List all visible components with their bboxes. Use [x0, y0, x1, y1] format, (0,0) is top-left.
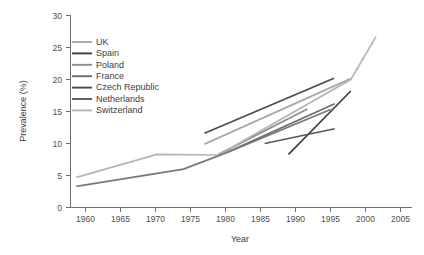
y-axis-ticks	[66, 16, 71, 208]
x-axis-ticks	[86, 208, 401, 213]
x-tick-label-1975: 1975	[181, 214, 200, 224]
prevalence-line-chart: 0 5 10 15 20 25 30 Prevalence (%)	[0, 0, 424, 255]
series-line-czech-republic	[205, 78, 335, 133]
x-tick-label-1970: 1970	[146, 214, 165, 224]
legend-label-switzerland: Switzerland	[96, 105, 143, 115]
legend-item-czech-republic[interactable]: Czech Republic	[72, 82, 160, 92]
chart-legend: UKSpainPolandFranceCzech RepublicNetherl…	[72, 37, 160, 115]
legend-label-france: France	[96, 71, 124, 81]
y-tick-label-20: 20	[53, 75, 63, 85]
legend-label-uk: UK	[96, 37, 109, 47]
series-line-uk	[205, 79, 351, 144]
y-axis-tick-labels: 0 5 10 15 20 25 30	[53, 11, 63, 213]
chart-canvas: 0 5 10 15 20 25 30 Prevalence (%)	[0, 0, 424, 255]
legend-label-poland: Poland	[96, 60, 124, 70]
legend-label-spain: Spain	[96, 48, 119, 58]
x-axis-title: Year	[231, 234, 249, 244]
x-tick-label-1960: 1960	[76, 214, 95, 224]
y-tick-label-5: 5	[57, 171, 62, 181]
x-tick-label-2005: 2005	[391, 214, 410, 224]
legend-item-spain[interactable]: Spain	[72, 48, 119, 58]
series-line-long-dark-trend	[76, 110, 330, 187]
x-tick-label-1995: 1995	[321, 214, 340, 224]
legend-item-uk[interactable]: UK	[72, 37, 109, 47]
legend-item-france[interactable]: France	[72, 71, 124, 81]
y-tick-label-30: 30	[53, 11, 63, 21]
legend-item-netherlands[interactable]: Netherlands	[72, 94, 145, 104]
y-tick-label-10: 10	[53, 139, 63, 149]
legend-item-poland[interactable]: Poland	[72, 60, 124, 70]
x-axis: 1960 1965 1970 1975 1980 1985 1990 1995 …	[71, 208, 413, 245]
x-tick-label-1965: 1965	[111, 214, 130, 224]
y-tick-label-15: 15	[53, 107, 63, 117]
x-axis-tick-labels: 1960 1965 1970 1975 1980 1985 1990 1995 …	[76, 214, 410, 224]
legend-item-switzerland[interactable]: Switzerland	[72, 105, 143, 115]
x-tick-label-1980: 1980	[216, 214, 235, 224]
x-tick-label-1985: 1985	[251, 214, 270, 224]
y-axis: 0 5 10 15 20 25 30 Prevalence (%)	[18, 11, 71, 213]
legend-label-czech-republic: Czech Republic	[96, 82, 160, 92]
x-tick-label-1990: 1990	[286, 214, 305, 224]
y-tick-label-0: 0	[57, 203, 62, 213]
y-tick-label-25: 25	[53, 43, 63, 53]
x-tick-label-2000: 2000	[356, 214, 375, 224]
legend-label-netherlands: Netherlands	[96, 94, 145, 104]
y-axis-title: Prevalence (%)	[18, 80, 28, 142]
